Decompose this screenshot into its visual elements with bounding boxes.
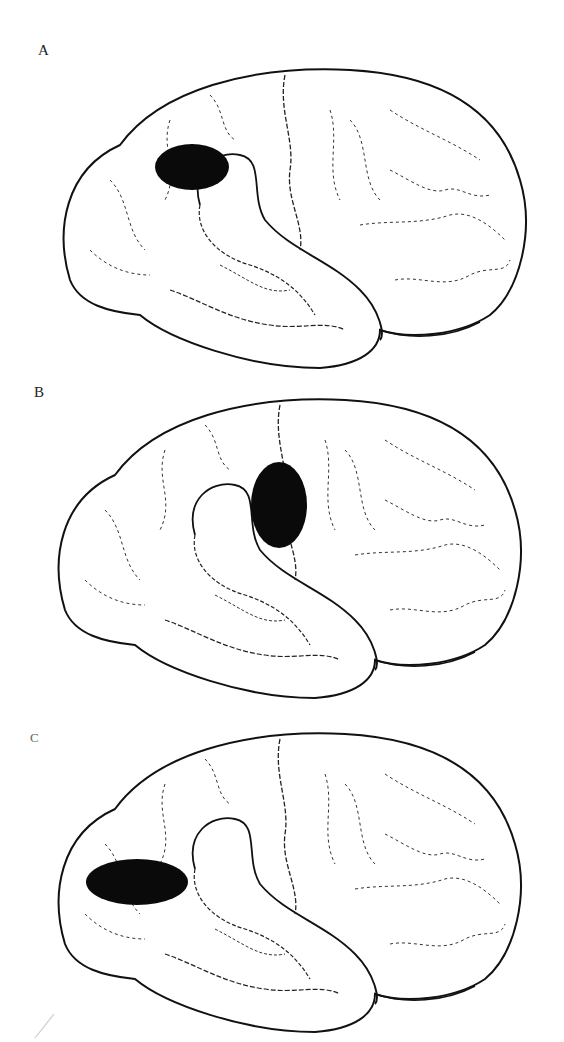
scan-artifact-line (30, 1010, 60, 1040)
brain-panel-c (0, 702, 564, 1032)
brain-panel-b (0, 372, 564, 702)
brain-lateral-view-icon (0, 702, 564, 1042)
lesion-marker-a (155, 144, 229, 190)
lesion-marker-c (86, 859, 188, 905)
brain-panel-a (0, 42, 564, 372)
brain-lateral-view-icon (0, 42, 564, 372)
lesion-marker-b (251, 462, 307, 548)
brain-lateral-view-icon (0, 372, 564, 702)
